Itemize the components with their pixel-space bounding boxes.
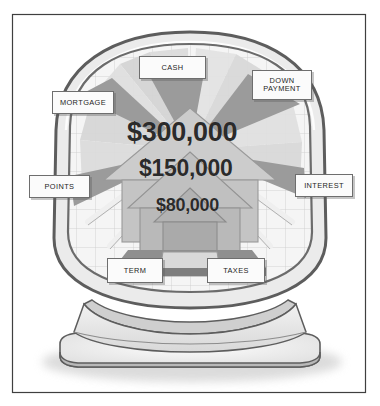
label-down-payment-line-2: PAYMENT	[263, 85, 300, 93]
label-taxes[interactable]: TAXES	[207, 258, 265, 283]
label-mortgage-line-1: MORTGAGE	[60, 99, 106, 107]
label-term-line-1: TERM	[124, 267, 147, 275]
amount-300000: $300,000	[127, 117, 237, 148]
label-term[interactable]: TERM	[107, 258, 163, 283]
label-points[interactable]: POINTS	[29, 175, 90, 198]
illustration-canvas: $300,000 $150,000 $80,000 CASH DOWN PAYM…	[0, 0, 380, 406]
label-points-line-1: POINTS	[45, 183, 75, 191]
label-interest-line-1: INTEREST	[304, 182, 344, 190]
amount-150000: $150,000	[139, 155, 233, 182]
label-interest[interactable]: INTEREST	[295, 174, 353, 197]
label-cash[interactable]: CASH	[139, 56, 206, 79]
amount-80000: $80,000	[156, 195, 219, 216]
label-down-payment[interactable]: DOWN PAYMENT	[252, 70, 312, 100]
label-cash-line-1: CASH	[161, 64, 183, 72]
label-taxes-line-1: TAXES	[223, 267, 249, 275]
label-mortgage[interactable]: MORTGAGE	[52, 91, 114, 114]
